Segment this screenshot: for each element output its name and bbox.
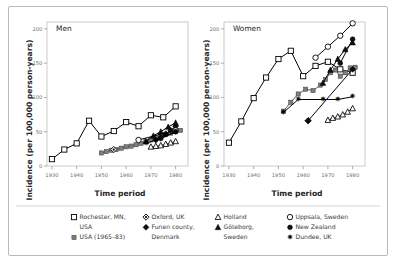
figure-root: Incidence (per 100,000 person-years) Inc…	[0, 0, 396, 263]
series-holland	[325, 105, 355, 122]
legend-label: New Zealand	[296, 223, 336, 230]
legend-item[interactable]: Rochester, MN,USA	[71, 213, 125, 230]
legend-item[interactable]: Göteborg,Sweden	[215, 223, 254, 240]
y-tick-label: 50	[36, 129, 43, 135]
svg-text:✷: ✷	[286, 232, 293, 242]
x-axis-title-women: Time period	[271, 189, 322, 198]
svg-text:✷: ✷	[334, 94, 341, 104]
legend-label: Sweden	[224, 233, 248, 240]
series-usa-1965-83	[281, 65, 357, 113]
x-tick-label: 1960	[120, 172, 133, 178]
x-tick-label: 1950	[95, 172, 108, 178]
svg-text:✷: ✷	[349, 91, 356, 101]
y-tick-label: 100	[209, 94, 219, 100]
svg-text:✷: ✷	[162, 130, 169, 140]
series-new-zealand	[338, 37, 355, 66]
legend-label: Göteborg,	[224, 223, 254, 231]
x-tick-label: 1980	[346, 172, 359, 178]
y-tick-label: 200	[32, 26, 42, 32]
legend-label: Rochester, MN,	[80, 213, 126, 220]
legend-label: Funen county,	[152, 223, 195, 231]
y-tick-label: 0	[216, 163, 219, 169]
panel-title-men: Men	[56, 24, 72, 33]
legend-label: Dundee, UK	[296, 233, 333, 240]
x-tick-label: 1940	[70, 172, 83, 178]
legend-label: USA	[80, 223, 93, 230]
x-tick-label: 1970	[321, 172, 334, 178]
legend-item[interactable]: Holland	[215, 213, 247, 220]
legend-item[interactable]: New Zealand	[288, 223, 336, 230]
x-tick-label: 1930	[222, 172, 235, 178]
panel-men: 050100150200193019401950196019701980✷✷✷✷	[32, 22, 188, 178]
y-tick-label: 150	[209, 60, 219, 66]
x-tick-label: 1970	[144, 172, 157, 178]
legend-item[interactable]: Uppsala, Sweden	[287, 213, 348, 221]
series-uppsala-sweden	[313, 21, 356, 61]
x-axis-title-men: Time period	[94, 189, 145, 198]
y-tick-label: 0	[39, 163, 42, 169]
legend-label: Denmark	[152, 233, 180, 240]
panel-title-women: Women	[233, 24, 261, 33]
legend: Rochester, MN,USAUSA (1965–83)Oxford, UK…	[16, 206, 380, 242]
legend-label: Oxford, UK	[152, 213, 186, 220]
y-tick-label: 100	[32, 94, 42, 100]
legend-label: Holland	[224, 213, 247, 220]
svg-text:✷: ✷	[280, 107, 287, 117]
x-tick-label: 1940	[247, 172, 260, 178]
x-tick-label: 1930	[45, 172, 58, 178]
y-tick-label: 200	[209, 26, 219, 32]
svg-text:✷: ✷	[295, 94, 302, 104]
y-tick-label: 150	[32, 60, 42, 66]
svg-text:✷: ✷	[152, 135, 159, 145]
legend-label: Uppsala, Sweden	[296, 213, 349, 221]
legend-label: USA (1965–83)	[80, 233, 126, 240]
panel-women: 050100150200193019401950196019701980✷✷✷✷…	[209, 21, 365, 178]
legend-item[interactable]: USA (1965–83)	[72, 233, 125, 240]
y-tick-label: 50	[213, 129, 220, 135]
x-tick-label: 1980	[169, 172, 182, 178]
svg-text:✷: ✷	[142, 138, 149, 148]
chart-canvas: Incidence (per 100,000 person-years) Inc…	[0, 0, 396, 263]
svg-text:✷: ✷	[172, 127, 179, 137]
svg-text:✷: ✷	[319, 94, 326, 104]
legend-item[interactable]: Funen county,Denmark	[143, 223, 195, 240]
legend-item[interactable]: Oxford, UK	[143, 213, 185, 220]
x-tick-label: 1950	[272, 172, 285, 178]
legend-item[interactable]: ✷Dundee, UK	[286, 232, 332, 242]
x-tick-label: 1960	[297, 172, 310, 178]
